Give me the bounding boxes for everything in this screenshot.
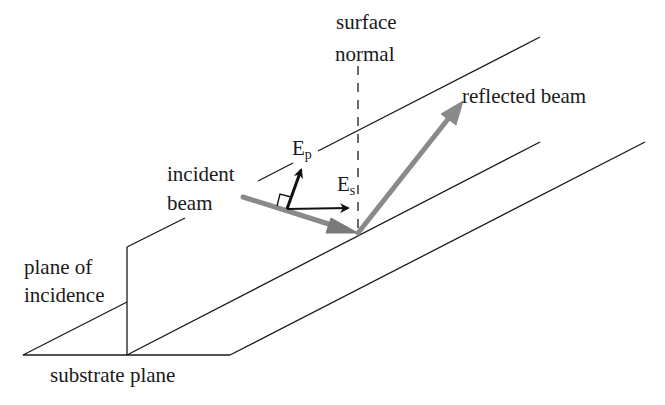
incidence-plane-top-edge-mid bbox=[258, 163, 293, 181]
plane-of-incidence-label-line2: incidence bbox=[24, 283, 104, 307]
substrate-plane-label: substrate plane bbox=[50, 363, 175, 387]
substrate-right-edge bbox=[230, 142, 645, 355]
incident-beam-label-line2: beam bbox=[167, 191, 212, 215]
substrate-left-edge bbox=[23, 302, 127, 355]
surface-normal-label-line1: surface bbox=[336, 10, 397, 34]
ep-label: Ep bbox=[292, 136, 312, 162]
es-label: Es bbox=[337, 172, 355, 198]
surface-normal-label-line2: normal bbox=[335, 42, 395, 66]
es-vector-arrow bbox=[287, 208, 348, 209]
incidence-plane-top-edge-left bbox=[127, 218, 185, 247]
incident-beam-label-line1: incident bbox=[167, 162, 235, 186]
reflected-beam-arrow bbox=[358, 101, 463, 233]
incident-beam-arrow bbox=[243, 197, 358, 233]
plane-of-incidence-label-line1: plane of bbox=[24, 255, 92, 279]
ep-vector-arrow bbox=[287, 170, 301, 209]
reflection-diagram: surface normal reflected beam incident b… bbox=[0, 0, 665, 405]
reflected-beam-label: reflected beam bbox=[462, 84, 586, 108]
